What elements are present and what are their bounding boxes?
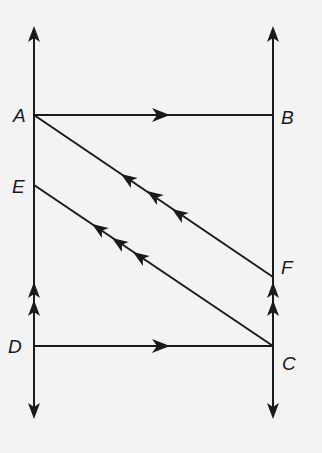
parallel-mark-icon <box>144 186 164 205</box>
point-label-B: B <box>281 107 294 128</box>
parallel-mark-icon <box>109 233 129 252</box>
point-label-A: A <box>12 105 26 126</box>
point-label-F: F <box>281 257 294 278</box>
diagram-svg: A B E F D C <box>0 0 322 453</box>
point-label-C: C <box>282 353 296 374</box>
parallel-mark-icon <box>118 169 138 188</box>
parallel-mark-icon <box>130 247 150 266</box>
point-label-E: E <box>12 176 25 197</box>
parallel-mark-icon <box>89 219 109 238</box>
parallel-mark-icon <box>169 204 189 223</box>
geometry-diagram: A B E F D C <box>0 0 322 453</box>
point-label-D: D <box>8 336 22 357</box>
segment-EC <box>34 185 273 346</box>
